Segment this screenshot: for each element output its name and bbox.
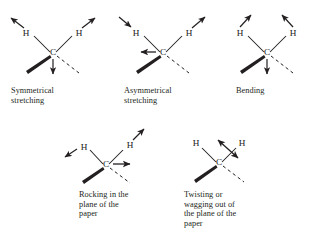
atom-right-h: H — [290, 28, 297, 38]
bond-c-to-right-h — [56, 36, 72, 52]
right-h-arrow — [133, 129, 144, 140]
bond-c-to-right-h — [166, 36, 182, 52]
left-h-arrow — [240, 15, 251, 27]
panel-asymmetrical-stretching: H H C — [116, 6, 212, 84]
caption-bending: Bending — [236, 86, 314, 96]
caption-asymmetrical-stretching: Asymmetrical stretching — [124, 86, 220, 105]
bond-c-to-left-h — [248, 36, 264, 52]
atom-left-h: H — [237, 28, 244, 38]
left-h-arrow — [119, 17, 131, 27]
panel-symmetrical-stretching: H H C — [6, 6, 102, 84]
twisting-diagram: H H C — [178, 126, 268, 188]
bond-c-to-left-h — [34, 36, 50, 52]
caption-twisting: Twisting or wagging out of the plane of … — [184, 190, 288, 228]
left-h-arrow — [11, 18, 24, 28]
bending-diagram: H H C — [222, 6, 312, 84]
left-h-arrow — [65, 149, 77, 157]
dashed-bond — [57, 56, 79, 73]
vibration-modes-figure: H H C Symmetrical stretching H H C — [0, 0, 314, 244]
bond-c-to-right-h — [270, 36, 286, 52]
atom-left-h: H — [23, 28, 30, 38]
atom-left-h: H — [193, 138, 200, 148]
panel-rocking: H H C — [62, 126, 158, 188]
caption-rocking: Rocking in the plane of the paper — [79, 190, 175, 219]
atom-right-h: H — [239, 138, 246, 148]
dashed-bond — [271, 56, 293, 73]
symmetrical-stretching-diagram: H H C — [6, 6, 102, 84]
bond-c-to-right-h — [109, 150, 123, 164]
wedge-bond — [82, 167, 105, 184]
rocking-diagram: H H C — [62, 126, 158, 188]
wedge-bond — [136, 55, 162, 74]
wedge-bond — [240, 55, 266, 74]
atom-center-c: C — [264, 47, 270, 57]
panel-twisting: H H C — [178, 126, 268, 188]
right-h-arrow — [192, 17, 205, 28]
caption-symmetrical-stretching: Symmetrical stretching — [11, 86, 103, 105]
dashed-bond — [110, 168, 130, 183]
right-h-arrow — [82, 18, 95, 28]
atom-center-c: C — [160, 47, 166, 57]
bond-c-to-left-h — [144, 36, 160, 52]
atom-right-h: H — [186, 28, 193, 38]
atom-left-h: H — [81, 142, 88, 152]
right-h-arrow — [282, 15, 293, 27]
wedge-bond — [26, 55, 52, 74]
asymmetrical-stretching-diagram: H H C — [116, 6, 212, 84]
bond-c-to-left-h — [90, 150, 103, 164]
atom-left-h: H — [133, 28, 140, 38]
atom-center-c: C — [103, 159, 109, 169]
wedge-bond — [194, 165, 218, 183]
atom-center-c: C — [50, 47, 56, 57]
dashed-bond — [167, 56, 189, 73]
atom-right-h: H — [127, 140, 134, 150]
bond-c-to-left-h — [202, 148, 216, 162]
panel-bending: H H C — [222, 6, 312, 84]
atom-center-c: C — [216, 157, 222, 167]
dashed-bond — [223, 166, 244, 182]
atom-right-h: H — [76, 28, 83, 38]
